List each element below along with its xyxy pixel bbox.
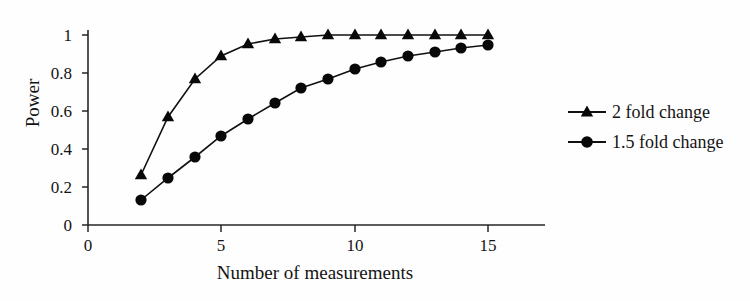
x-tick-label-5: 5 [201, 237, 241, 254]
legend-label-2-fold-change: 2 fold change [612, 102, 710, 122]
power-curve-figure: 1 0.8 0.6 0.4 0.2 0 0 5 10 15 Number of … [0, 0, 750, 301]
series-line-1-5-fold-change [141, 45, 488, 200]
legend-entry-1-5-fold-change: 1.5 fold change [566, 127, 746, 157]
x-tick-label-10: 10 [335, 237, 375, 254]
x-tick-label-15: 15 [468, 237, 508, 254]
legend-label-1-5-fold-change: 1.5 fold change [612, 132, 723, 152]
series-markers-1-5-fold-change [135, 39, 493, 205]
x-tick-label-0: 0 [68, 237, 108, 254]
y-tick-label-0-4: 0.4 [12, 141, 72, 158]
series-group [135, 28, 494, 205]
circle-marker-icon [566, 127, 608, 157]
y-tick-label-1: 1 [12, 27, 72, 44]
axes-group [82, 30, 545, 232]
y-axis-title: Power [22, 63, 44, 143]
y-tick-label-0-2: 0.2 [12, 179, 72, 196]
y-axis-ticks [82, 35, 88, 225]
triangle-marker-icon [566, 97, 608, 127]
legend-entry-2-fold-change: 2 fold change [566, 97, 746, 127]
x-axis-title: Number of measurements [95, 262, 535, 284]
legend: 2 fold change 1.5 fold change [566, 97, 746, 157]
y-tick-label-0: 0 [12, 217, 72, 234]
x-axis-ticks [88, 225, 488, 232]
